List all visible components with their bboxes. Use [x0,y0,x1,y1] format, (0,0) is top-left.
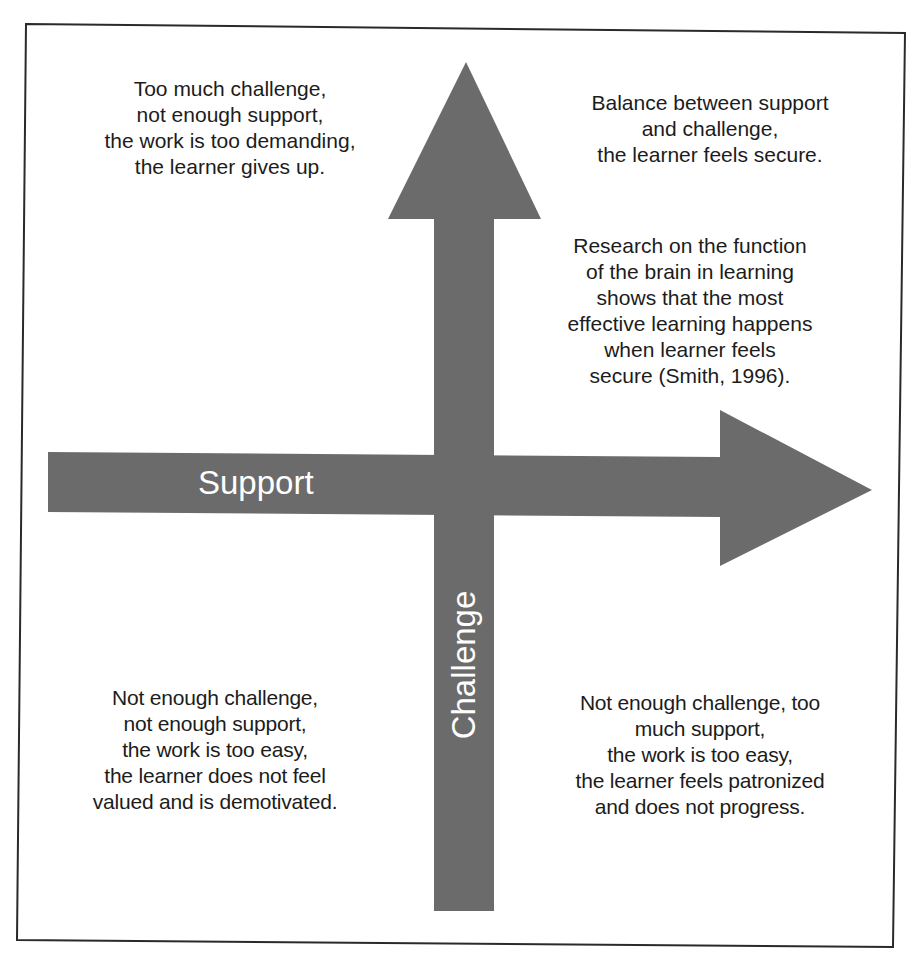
quadrant-bottom-right-text: Not enough challenge, too much support, … [535,690,865,820]
support-challenge-diagram: Too much challenge, not enough support, … [0,0,920,965]
challenge-axis-label: Challenge [446,591,482,740]
quadrant-top-right-research-note: Research on the function of the brain in… [520,233,860,389]
quadrant-top-left-text: Too much challenge, not enough support, … [60,76,400,180]
quadrant-bottom-left-text: Not enough challenge, not enough support… [30,685,400,815]
support-axis-label: Support [198,465,314,501]
quadrant-top-right-text: Balance between support and challenge, t… [540,90,880,168]
